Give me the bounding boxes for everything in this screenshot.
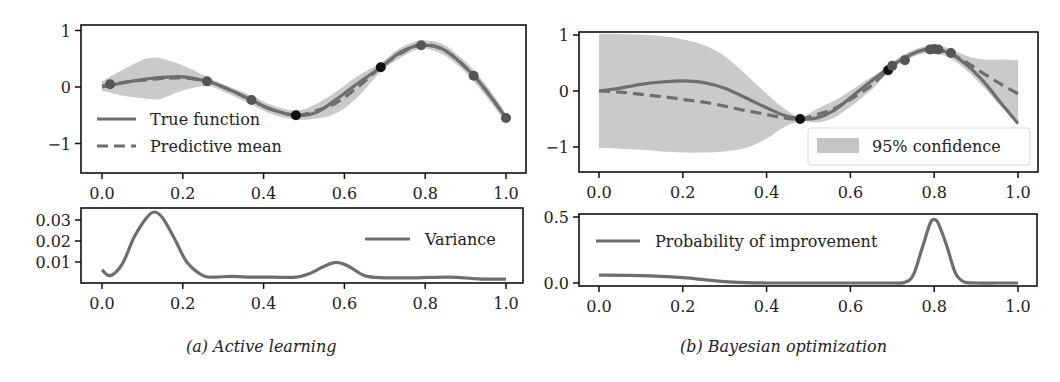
x-tick-label: 0.2 [670, 297, 695, 316]
observation-point [900, 55, 910, 65]
y-tick-label: 0.01 [35, 253, 71, 272]
x-tick-label: 0.8 [921, 297, 946, 316]
x-tick-label: 0.0 [586, 297, 611, 316]
y-tick-label: 0.5 [544, 208, 569, 227]
x-tick-label: 0.6 [332, 294, 357, 313]
x-tick-label: 0.8 [412, 294, 437, 313]
x-tick-label: 0.4 [754, 297, 779, 316]
y-tick-label: 0 [559, 82, 569, 101]
legend-predictive-mean-label: Predictive mean [150, 137, 282, 156]
x-tick-label: 1.0 [493, 184, 518, 203]
x-tick-label: 0.4 [754, 183, 779, 202]
observation-point [105, 79, 115, 89]
y-tick-label: −1 [545, 138, 569, 157]
caption-bayesian-optimization: (b) Bayesian optimization [680, 337, 887, 356]
observation-point [501, 113, 511, 123]
x-tick-label: 0.2 [670, 183, 695, 202]
legend-confidence-swatch [817, 138, 859, 153]
observation-point [795, 114, 805, 124]
observation-point [887, 61, 897, 71]
x-tick-label: 1.0 [1005, 183, 1030, 202]
x-tick-label: 1.0 [493, 294, 518, 313]
observation-point [246, 95, 256, 105]
active-learning-function-plot: 0.00.20.40.60.81.010−1True functionPredi… [47, 22, 526, 204]
legend-improvement-label: Probability of improvement [655, 232, 878, 251]
observation-point [946, 48, 956, 58]
observation-point [469, 71, 479, 81]
x-tick-label: 0.6 [838, 297, 863, 316]
x-tick-label: 0.2 [170, 184, 195, 203]
x-tick-label: 0.0 [586, 183, 611, 202]
y-tick-label: −1 [47, 135, 71, 154]
y-tick-label: 1 [61, 22, 71, 41]
observation-point [376, 62, 386, 72]
x-tick-label: 0.4 [251, 184, 276, 203]
x-tick-label: 0.8 [412, 184, 437, 203]
legend-true-function-label: True function [150, 110, 260, 129]
active-learning-variance-plot: 0.00.20.40.60.81.00.030.020.01Variance [35, 208, 523, 313]
legend-confidence-label: 95% confidence [872, 137, 1001, 156]
y-tick-label: 0.0 [544, 274, 569, 293]
x-tick-label: 0.0 [89, 184, 114, 203]
y-tick-label: 1 [559, 26, 569, 45]
x-tick-label: 0.6 [332, 184, 357, 203]
x-tick-label: 0.6 [838, 183, 863, 202]
figure-canvas: 0.00.20.40.60.81.010−1True functionPredi… [0, 0, 1060, 382]
observation-point [416, 40, 426, 50]
improvement-line [599, 220, 1018, 284]
y-tick-label: 0.02 [35, 232, 71, 251]
x-tick-label: 0.8 [921, 183, 946, 202]
y-tick-label: 0.03 [35, 211, 71, 230]
x-tick-label: 0.2 [170, 294, 195, 313]
x-tick-label: 0.4 [251, 294, 276, 313]
y-tick-label: 0 [61, 78, 71, 97]
bayesian-optimization-function-plot: 0.00.20.40.60.81.010−195% confidence [545, 26, 1038, 202]
plot-area [599, 220, 1018, 284]
axes-frame [81, 25, 526, 173]
caption-active-learning: (a) Active learning [186, 337, 337, 356]
legend-variance-label: Variance [424, 230, 496, 249]
observation-point [291, 110, 301, 120]
observation-point [933, 45, 943, 55]
x-tick-label: 1.0 [1005, 297, 1030, 316]
observation-point [202, 76, 212, 86]
bayesian-optimization-improvement-plot: 0.00.20.40.60.81.00.50.0Probability of i… [544, 208, 1037, 316]
x-tick-label: 0.0 [89, 294, 114, 313]
